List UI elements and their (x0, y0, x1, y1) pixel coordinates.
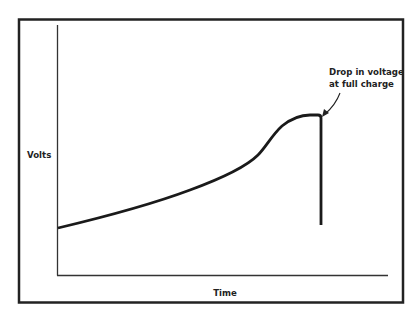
annotation-line-1: Drop in voltage (329, 67, 404, 77)
annotation-arrow (325, 93, 340, 114)
annotation-line-2: at full charge (329, 79, 394, 89)
arrowhead-icon (322, 109, 329, 117)
chart-frame (19, 20, 403, 303)
x-axis-label: Time (213, 288, 237, 298)
y-axis-label: Volts (27, 150, 51, 160)
voltage-curve (58, 115, 321, 228)
chart: Drop in voltage at full charge Volts Tim… (0, 0, 417, 314)
